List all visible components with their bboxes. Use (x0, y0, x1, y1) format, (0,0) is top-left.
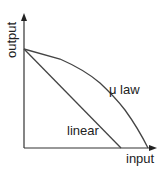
y-axis-label: output (4, 21, 19, 58)
linear-label: linear (67, 123, 99, 138)
mu-law-label: μ law (109, 82, 140, 97)
mu-law-diagram: output input μ law linear (0, 0, 163, 172)
y-axis-arrow-icon (21, 13, 27, 21)
x-axis-label: input (126, 151, 155, 166)
